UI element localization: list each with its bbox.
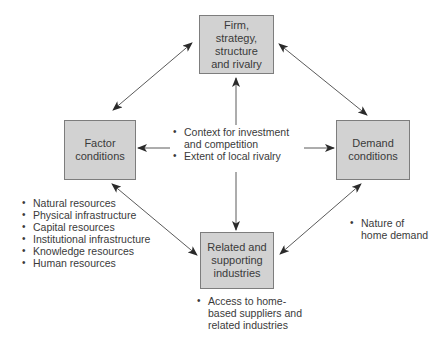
node-demand-label: Demand conditions [348,137,398,163]
bullet-item: Institutional infrastructure [21,233,150,245]
arrow-factor-firm [113,43,192,110]
bullet-item: Physical infrastructure [21,209,150,221]
bullet-item-continuation: related industries [196,319,302,331]
node-related-industries: Related and supporting industries [200,232,274,289]
arrow-firm-demand [279,44,367,115]
center-bullet-list: Context for investment and competition E… [172,126,289,162]
node-demand-conditions: Demand conditions [336,120,410,180]
bullet-item: Access to home- [196,295,302,307]
bullet-item: Knowledge resources [21,245,150,257]
node-firm-label: Firm, strategy, structure and rivalry [211,19,262,71]
bullet-item-continuation: based suppliers and [196,307,302,319]
bullet-item: Natural resources [21,197,150,209]
bullet-item: Extent of local rivalry [172,150,289,162]
bullet-item: Capital resources [21,221,150,233]
node-firm-strategy: Firm, strategy, structure and rivalry [199,15,274,74]
related-bullet-list: Access to home- based suppliers and rela… [196,295,302,331]
bullet-item-continuation: home demand [349,229,428,241]
bullet-item: Context for investment [172,126,289,138]
node-factor-label: Factor conditions [75,137,125,163]
bullet-item: Human resources [21,257,150,269]
node-factor-conditions: Factor conditions [64,120,136,180]
node-related-label: Related and supporting industries [207,241,266,280]
factor-bullet-list: Natural resources Physical infrastructur… [21,197,150,269]
demand-bullet-list: Nature of home demand [349,217,428,241]
bullet-item-continuation: and competition [172,138,289,150]
bullet-item: Nature of [349,217,428,229]
